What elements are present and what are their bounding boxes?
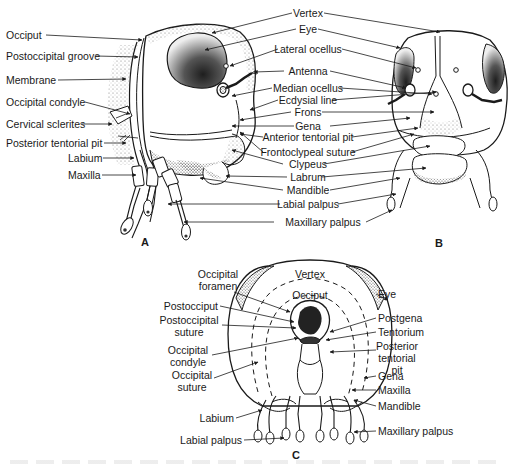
label-labial-palpus: Labial palpus — [258, 198, 358, 210]
label-mandible: Mandible — [258, 184, 358, 196]
insect-head-diagram: Occiput Postoccipital groove Membrane Oc… — [0, 0, 510, 468]
label-lateral-ocellus: Lateral ocellus — [258, 43, 358, 55]
label-vertex: Vertex — [258, 7, 358, 19]
label-c-eye: Eye — [378, 288, 396, 300]
label-occiput: Occiput — [6, 29, 42, 41]
label-c-occipital-foramen: Occipital foramen — [188, 268, 248, 292]
label-c-labium: Labium — [180, 412, 234, 424]
diagram-artwork — [0, 0, 510, 468]
label-frons: Frons — [258, 106, 358, 118]
label-c-tentorium: Tentorium — [378, 326, 424, 338]
label-membrane: Membrane — [6, 74, 56, 86]
label-clypeus: Clypeus — [258, 158, 358, 170]
label-ecdysial-line: Ecdysial line — [258, 94, 358, 106]
label-posterior-tentorial-pit: Posterior tentorial pit — [6, 137, 102, 149]
label-eye: Eye — [258, 23, 358, 35]
label-c-postocciput: Postocciput — [150, 300, 218, 312]
panel-label-a: A — [141, 236, 149, 248]
label-c-mandible: Mandible — [378, 400, 421, 412]
label-c-postoccipital-suture: Postoccipital suture — [154, 314, 224, 338]
panel-label-b: B — [435, 237, 443, 249]
label-occipital-condyle: Occipital condyle — [6, 96, 85, 108]
label-c-maxilla: Maxilla — [378, 384, 411, 396]
label-frontoclypeal-suture: Frontoclypeal suture — [248, 146, 368, 158]
head-frontal-view — [387, 31, 507, 211]
cropped-caption-line — [10, 460, 500, 464]
label-postoccipital-groove: Postoccipital groove — [6, 50, 100, 62]
label-maxillary-palpus: Maxillary palpus — [268, 216, 378, 228]
label-anterior-tentorial-pit: Anterior tentorial pit — [248, 131, 368, 143]
label-c-occipital-suture: Occipital suture — [164, 369, 220, 393]
label-c-gena: Gena — [378, 370, 404, 382]
label-cervical-sclerites: Cervical sclerites — [6, 118, 85, 130]
label-c-occipital-condyle: Occipital condyle — [160, 344, 216, 368]
head-posterior-view — [228, 260, 392, 444]
label-c-vertex: Vertex — [282, 268, 338, 280]
label-maxilla: Maxilla — [68, 169, 101, 181]
label-c-postgena: Postgena — [378, 312, 422, 324]
label-c-labial-palpus: Labial palpus — [160, 434, 242, 446]
label-c-occiput: Occiput — [282, 289, 338, 301]
label-antenna: Antenna — [258, 65, 358, 77]
label-labrum: Labrum — [258, 171, 358, 183]
label-c-maxillary-palpus: Maxillary palpus — [378, 425, 453, 437]
label-median-ocellus: Median ocellus — [258, 82, 358, 94]
label-labium: Labium — [68, 152, 102, 164]
